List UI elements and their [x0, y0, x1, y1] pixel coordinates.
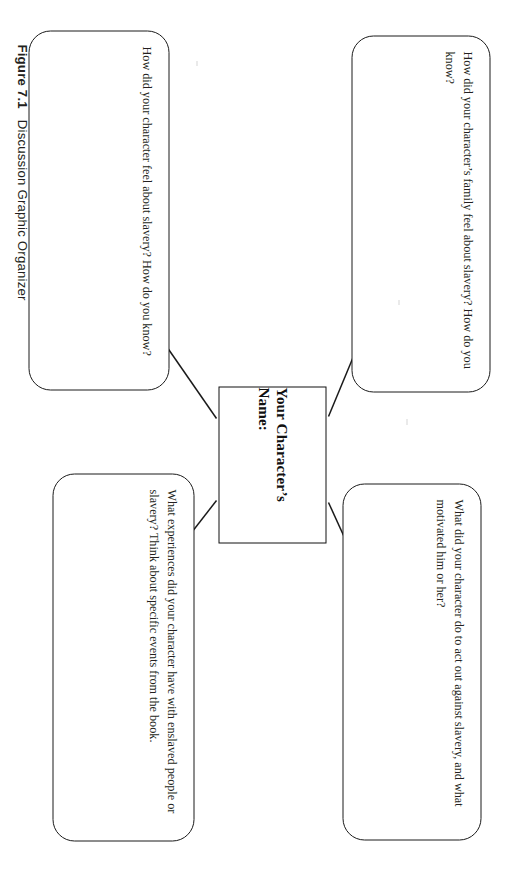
scan-speck	[196, 61, 198, 66]
organizer-box-actions[interactable]: What did your character do to act out ag…	[342, 483, 481, 840]
scan-speck	[398, 300, 400, 305]
organizer-center-box[interactable]: Your Character’s Name:	[218, 386, 326, 543]
figure-canvas: How did your character’s family feel abo…	[0, 0, 516, 875]
organizer-box-family-text: How did your character’s family feel abo…	[440, 51, 476, 376]
figure-caption-label: Figure 7.1	[14, 44, 29, 108]
organizer-box-feelings-text: How did your character feel about slaver…	[137, 46, 155, 374]
organizer-box-feelings[interactable]: How did your character feel about slaver…	[28, 30, 169, 390]
organizer-box-family[interactable]: How did your character’s family feel abo…	[351, 35, 490, 392]
organizer-box-experiences[interactable]: What experiences did your character have…	[52, 473, 194, 841]
organizer-center-box-label: Your Character’s Name:	[254, 387, 290, 542]
graphic-organizer-diagram: How did your character’s family feel abo…	[0, 0, 516, 875]
organizer-box-actions-text: What did your character do to act out ag…	[431, 499, 467, 824]
figure-page: How did your character’s family feel abo…	[0, 0, 516, 875]
figure-caption: Figure 7.1Discussion Graphic Organizer	[14, 44, 29, 300]
organizer-box-experiences-text: What experiences did your character have…	[144, 489, 180, 825]
scan-speck	[406, 419, 408, 425]
figure-caption-title: Discussion Graphic Organizer	[14, 119, 29, 300]
